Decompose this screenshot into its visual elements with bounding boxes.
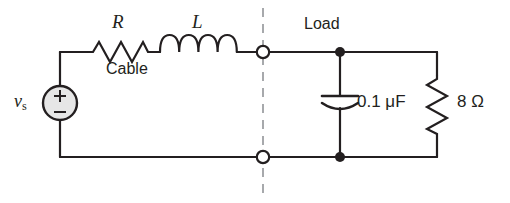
top-open-terminal (257, 46, 269, 58)
load-section-label: Load (304, 16, 340, 32)
cable-resistor-symbol (88, 42, 150, 62)
capacitor-value-label: 0.1 μF (357, 93, 406, 110)
schematic-canvas (0, 0, 510, 203)
top-load-junction-dot (335, 47, 345, 57)
voltage-source-label-symbol: v (14, 91, 22, 111)
voltage-source-label: vs (14, 92, 27, 112)
load-resistor-value-label: 8 Ω (457, 93, 484, 110)
cable-inductor-symbol (160, 35, 237, 52)
cable-resistor-label: R (112, 12, 124, 31)
load-resistor-symbol (427, 75, 447, 135)
voltage-source-symbol (43, 86, 77, 120)
cable-inductor-label: L (192, 12, 203, 31)
bottom-open-terminal (257, 151, 269, 163)
voltage-source-label-subscript: s (22, 99, 27, 113)
circuit-diagram: R L vs Cable Load 0.1 μF 8 Ω (0, 0, 510, 203)
cable-section-label: Cable (106, 61, 148, 77)
bottom-load-junction-dot (335, 152, 345, 162)
